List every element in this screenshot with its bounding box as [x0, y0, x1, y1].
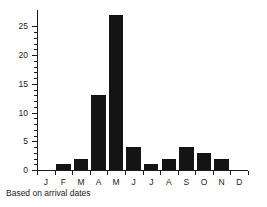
bar-august — [162, 159, 176, 170]
x-axis-tick-label: M — [113, 178, 120, 187]
x-axis-tick-label: A — [96, 178, 102, 187]
x-axis-tick — [37, 171, 38, 175]
y-axis-tick-label: 10 — [0, 108, 28, 117]
bar-june — [126, 147, 140, 170]
y-axis-tick-label: 0 — [0, 166, 28, 175]
y-axis-tick-label: 5 — [0, 137, 28, 146]
x-axis-tick-label: J — [132, 178, 136, 187]
bar-may — [109, 15, 123, 170]
y-axis-tick-label: 20 — [0, 51, 28, 60]
x-axis-tick-label: J — [44, 178, 48, 187]
x-axis-tick — [90, 171, 91, 175]
x-axis-tick-label: M — [77, 178, 84, 187]
chart-caption: Based on arrival dates — [6, 189, 91, 198]
x-axis-tick-label: F — [61, 178, 66, 187]
x-axis-tick — [125, 171, 126, 175]
x-axis-tick-label: D — [236, 178, 242, 187]
x-axis-tick-label: O — [201, 178, 208, 187]
x-axis-tick — [72, 171, 73, 175]
y-axis-tick-label: 15 — [0, 80, 28, 89]
bar-july — [144, 164, 158, 170]
bar-april — [91, 95, 105, 170]
y-axis-tick-label: 25 — [0, 22, 28, 31]
x-axis-tick-label: N — [219, 178, 225, 187]
x-axis-tick — [107, 171, 108, 175]
bar-september — [179, 147, 193, 170]
x-axis-tick — [248, 171, 249, 175]
bar-chart-figure: 0510152025 JFMAMJJASOND Based on arrival… — [0, 0, 267, 207]
bar-february — [56, 164, 70, 170]
x-axis-tick-label: S — [184, 178, 190, 187]
x-axis-tick — [213, 171, 214, 175]
x-axis-tick — [160, 171, 161, 175]
bar-october — [197, 153, 211, 170]
plot-area — [37, 12, 248, 170]
x-axis-tick — [230, 171, 231, 175]
x-axis-tick-label: J — [149, 178, 153, 187]
bar-march — [74, 159, 88, 170]
x-axis-tick — [55, 171, 56, 175]
x-axis-tick — [143, 171, 144, 175]
x-axis-tick — [195, 171, 196, 175]
x-axis-tick — [178, 171, 179, 175]
bar-november — [214, 159, 228, 170]
x-axis-tick-label: A — [166, 178, 172, 187]
